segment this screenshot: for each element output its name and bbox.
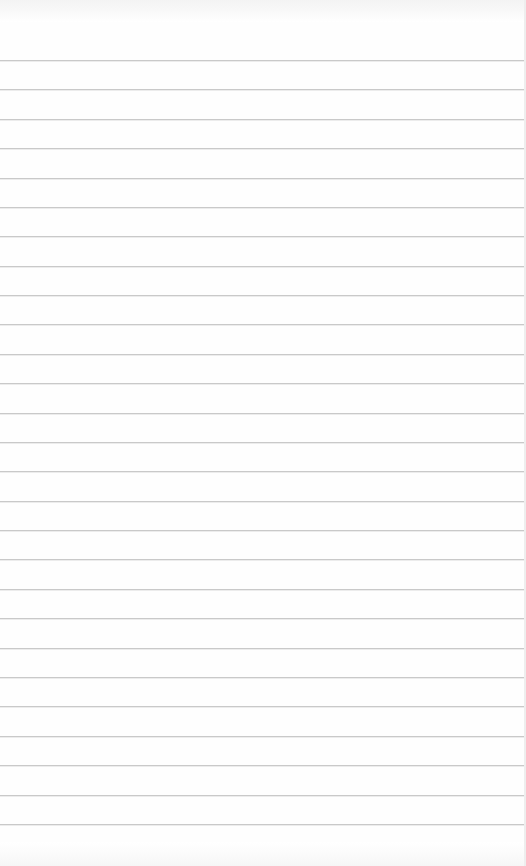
ruled-line bbox=[0, 266, 524, 267]
ruled-line bbox=[0, 60, 524, 61]
ruled-line bbox=[0, 413, 524, 414]
ruled-line bbox=[0, 236, 524, 237]
ruled-line bbox=[0, 795, 524, 796]
ruled-line bbox=[0, 178, 524, 179]
ruled-line bbox=[0, 589, 524, 590]
ruled-line bbox=[0, 471, 524, 472]
ruled-line bbox=[0, 501, 524, 502]
ruled-line bbox=[0, 530, 524, 531]
ruled-line bbox=[0, 354, 524, 355]
ruled-line bbox=[0, 559, 524, 560]
ruled-line bbox=[0, 324, 524, 325]
ruled-line bbox=[0, 706, 524, 707]
ruled-line bbox=[0, 736, 524, 737]
ruled-line bbox=[0, 119, 524, 120]
ruled-paper-sheet bbox=[0, 0, 526, 866]
ruled-line bbox=[0, 648, 524, 649]
bottom-edge-texture bbox=[0, 842, 526, 866]
ruled-line bbox=[0, 677, 524, 678]
ruled-line bbox=[0, 765, 524, 766]
top-edge-texture bbox=[0, 0, 526, 22]
ruled-line bbox=[0, 89, 524, 90]
ruled-line bbox=[0, 207, 524, 208]
ruled-line bbox=[0, 295, 524, 296]
ruled-line bbox=[0, 148, 524, 149]
ruled-line bbox=[0, 618, 524, 619]
ruled-line bbox=[0, 383, 524, 384]
ruled-line bbox=[0, 442, 524, 443]
ruled-line bbox=[0, 824, 524, 825]
